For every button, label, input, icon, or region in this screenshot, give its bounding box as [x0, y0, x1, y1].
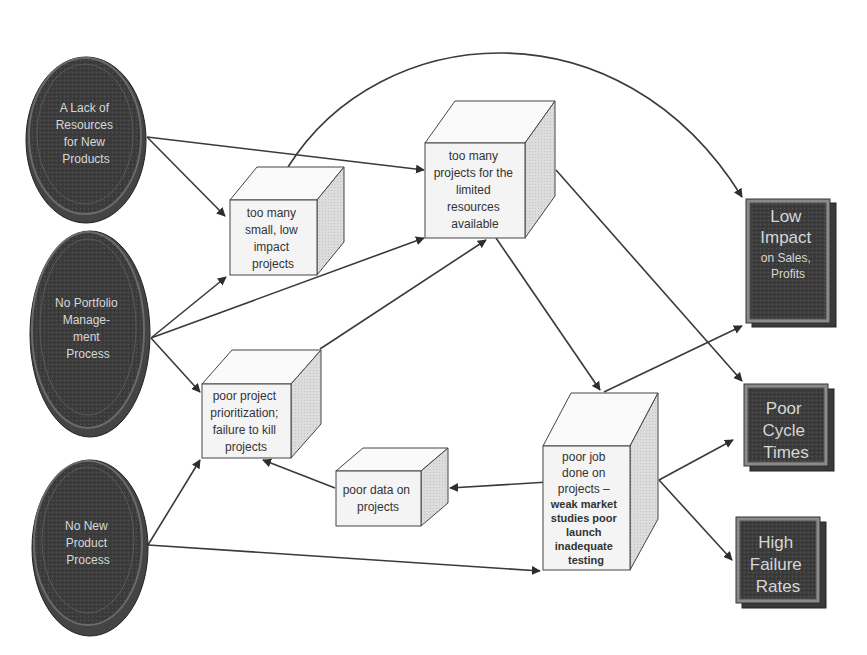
edge-npp-to-prioritization — [148, 460, 200, 545]
edge-npp-to-poor-job — [148, 545, 540, 571]
issue-too-many-projects: too many projects for the limited resour… — [425, 101, 555, 238]
outcome-low-impact: Low Impact on Sales, Profits — [746, 199, 836, 327]
outcome-high-failure-rates: High Failure Rates — [736, 517, 826, 608]
edge-poor-job-to-high-failure — [659, 480, 732, 560]
issue-poor-prioritization: poor project prioritization; failure to … — [202, 350, 321, 458]
edge-too-many-projects-to-cycle — [556, 170, 742, 381]
edge-poor-job-to-poor-data — [450, 482, 548, 488]
issue-small-low-impact-projects: too many small, low impact projects — [230, 167, 344, 275]
edge-portfolio-to-prioritization — [151, 338, 200, 392]
root-cause-label: No New Product Process — [65, 519, 111, 567]
edge-lack-resources-to-small-projects — [147, 137, 225, 216]
edge-lack-resources-to-too-many-projects — [147, 137, 424, 170]
edge-portfolio-to-small-projects — [151, 277, 226, 338]
root-cause-no-new-product-process: No New Product Process — [32, 460, 148, 636]
root-cause-no-portfolio-management: No Portfolio Manage- ment Process — [30, 231, 150, 437]
edge-poor-data-to-prioritization — [263, 460, 335, 488]
edge-poor-job-to-low-impact — [604, 326, 742, 392]
issue-poor-job-done: poor job done on projects – weak market … — [543, 393, 658, 570]
edge-too-many-projects-to-poor-job — [496, 238, 600, 390]
edge-prioritization-to-too-many-projects — [320, 240, 486, 349]
outcome-poor-cycle-times: Poor Cycle Times — [744, 384, 834, 471]
cause-effect-diagram: A Lack of Resources for New Products No … — [0, 0, 867, 655]
root-cause-lack-of-resources: A Lack of Resources for New Products — [26, 57, 146, 223]
outcome-label: Poor Cycle Times — [763, 399, 810, 462]
edge-poor-job-to-cycle — [659, 440, 733, 480]
issue-poor-data: poor data on projects — [336, 448, 448, 526]
